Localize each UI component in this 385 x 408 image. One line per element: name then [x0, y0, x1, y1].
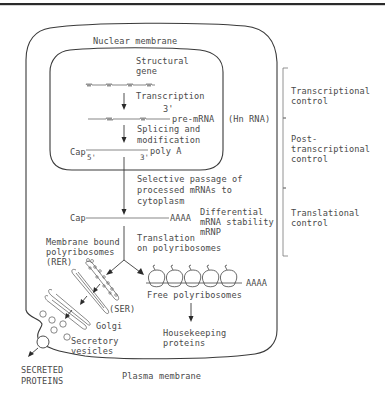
fork-right	[124, 260, 140, 272]
control-level-transcriptional: Transcriptional control	[291, 86, 370, 106]
pre-mrna-strand	[88, 118, 170, 121]
mrna-stability-label: mRNA stability	[200, 217, 274, 227]
cap-nuclear-label: Cap	[70, 147, 86, 157]
five-prime-label: 5'	[87, 153, 96, 162]
poly-a-label: poly A	[150, 146, 182, 156]
bracket-translational	[283, 188, 288, 256]
structural-gene-label: Structural	[136, 56, 189, 66]
splicing-label: Splicing and	[137, 124, 200, 134]
svg-text:Translational: Translational	[291, 208, 360, 218]
fork-left	[110, 260, 124, 272]
on-polyribosomes-label: on polyribosomes	[137, 243, 221, 253]
svg-text:control: control	[291, 96, 328, 106]
plasma-membrane-label: Plasma membrane	[122, 371, 201, 381]
housekeeping-label: Housekeeping	[163, 328, 226, 338]
arrowhead-icon	[122, 137, 127, 143]
cytoplasm-label: cytoplasm	[137, 196, 184, 206]
free-polyribosomes-label: Free polyribosomes	[147, 290, 242, 300]
secretory-label: Secretory	[71, 336, 118, 346]
bracket-post-transcriptional	[283, 118, 286, 188]
differential-label: Differential	[200, 207, 263, 217]
nuclear-membrane-label: Nuclear membrane	[93, 36, 177, 46]
arrowhead-icon	[137, 268, 144, 275]
rer-label: (RER)	[46, 257, 72, 267]
svg-text:control: control	[291, 154, 328, 164]
ser-inner	[76, 273, 104, 308]
control-level-translational: Translational control	[291, 208, 360, 228]
svg-text:Post-: Post-	[291, 134, 317, 144]
vesicles-label-text: vesicles	[71, 346, 113, 356]
secreted-label: SECRETED	[21, 365, 63, 375]
three-prime-top-label: 3'	[163, 104, 174, 114]
polyribosomes-label: polyribosomes	[46, 247, 115, 257]
mrnp-label: mRNP	[200, 227, 221, 237]
membrane-bound-label: Membrane bound	[46, 237, 120, 247]
aaaa-free-label: AAAA	[246, 278, 268, 288]
bracket-transcriptional	[283, 68, 288, 118]
arrowhead-icon	[122, 104, 127, 110]
pre-mrna-label: pre-mRNA	[172, 114, 215, 124]
golgi-label: Golgi	[96, 321, 122, 331]
gene-expression-diagram: Nuclear membrane Structural gene Transcr…	[0, 0, 385, 408]
hn-rna-label: (Hn RNA)	[228, 114, 270, 124]
three-prime-label: 3'	[140, 153, 149, 162]
modification-label: modification	[137, 135, 200, 145]
top-rule	[0, 3, 385, 5]
exocytosis-vesicle	[37, 336, 49, 348]
cap-cyto-label: Cap	[70, 213, 86, 223]
processed-mrnas-label: processed mRNAs to	[137, 185, 232, 195]
transcription-label: Transcription	[136, 91, 205, 101]
svg-text:Transcriptional: Transcriptional	[291, 86, 370, 96]
housekeeping-proteins-label: proteins	[163, 338, 205, 348]
translation-label: Translation	[137, 233, 195, 243]
arrowhead-icon	[122, 209, 127, 215]
structural-gene-label-2: gene	[136, 66, 157, 76]
free-polyribosomes	[146, 265, 242, 287]
control-level-post-transcriptional: Post- transcriptional control	[291, 134, 370, 164]
structural-gene-dna	[86, 84, 155, 87]
ser-label: (SER)	[109, 304, 135, 314]
selective-passage-label: Selective passage of	[137, 174, 242, 184]
proteins-label: PROTEINS	[21, 376, 63, 386]
svg-text:control: control	[291, 218, 328, 228]
rer-ribosomes	[87, 259, 118, 297]
svg-text:transcriptional: transcriptional	[291, 144, 370, 154]
arrowhead-icon	[189, 316, 194, 322]
aaaa-cyto-label: AAAA	[170, 213, 192, 223]
